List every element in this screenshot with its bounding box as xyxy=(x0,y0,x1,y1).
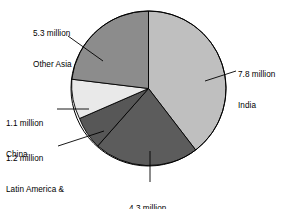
pie-label-other-asia-value: 5.3 million xyxy=(33,29,72,39)
pie-label-latam-value: 1.2 million xyxy=(6,154,64,164)
pie-chart: 5.3 million Other Asia 7.8 million India… xyxy=(0,0,296,209)
pie-label-india-name: India xyxy=(238,101,275,111)
pie-label-other-asia: 5.3 million Other Asia xyxy=(33,9,72,91)
pie-label-africa: 4.3 million Africa xyxy=(129,184,166,209)
pie-label-india: 7.8 million India xyxy=(238,50,275,132)
pie-label-latam-name-line1: Latin America & xyxy=(6,185,64,195)
pie-slices xyxy=(71,11,226,166)
pie-slice-other-asia[interactable] xyxy=(72,11,149,89)
pie-label-other-asia-name: Other Asia xyxy=(33,60,72,70)
pie-label-latin-america-caribbean: 1.2 million Latin America & Caribbean xyxy=(6,134,64,209)
pie-label-india-value: 7.8 million xyxy=(238,70,275,80)
pie-label-africa-value: 4.3 million xyxy=(129,204,166,209)
pie-label-china-value: 1.1 million xyxy=(6,119,43,129)
